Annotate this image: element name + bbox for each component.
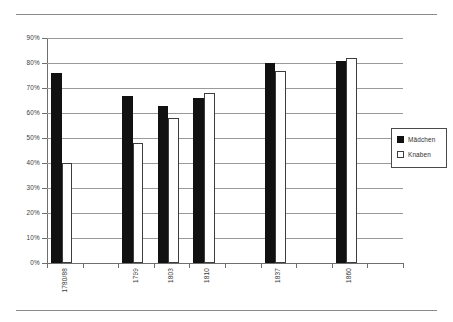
bar-maedchen-1837 — [265, 63, 276, 263]
bar-maedchen-1860 — [336, 61, 347, 264]
y-axis-label-60%: 60% — [0, 109, 40, 116]
y-axis-label-40%: 40% — [0, 159, 40, 166]
y-axis-label-0%: 0% — [0, 259, 40, 266]
y-axis-label-20%: 20% — [0, 209, 40, 216]
y-tick-70% — [42, 88, 47, 89]
y-axis-label-80%: 80% — [0, 59, 40, 66]
x-tick-9 — [367, 263, 368, 268]
y-tick-40% — [42, 163, 47, 164]
bar-knaben-1810 — [204, 93, 215, 263]
x-tick-4 — [189, 263, 190, 268]
legend-label-knaben: Knaben — [408, 151, 431, 158]
x-axis-label-1810: 1810 — [203, 268, 210, 283]
x-tick-6 — [261, 263, 262, 268]
legend-item-knaben: Knaben — [397, 151, 431, 158]
x-tick-10 — [403, 263, 404, 268]
x-tick-5 — [225, 263, 226, 268]
y-tick-50% — [42, 138, 47, 139]
y-axis-label-10%: 10% — [0, 234, 40, 241]
x-axis-label-1803: 1803 — [167, 268, 174, 283]
x-axis-label-1837: 1837 — [274, 268, 281, 283]
bar-chart: 0%10%20%30%40%50%60%70%80%90% 1780/88179… — [0, 0, 453, 322]
y-tick-10% — [42, 238, 47, 239]
x-tick-1 — [83, 263, 84, 268]
legend-label-maedchen: Mädchen — [408, 136, 435, 143]
y-axis-label-30%: 30% — [0, 184, 40, 191]
y-tick-30% — [42, 188, 47, 189]
y-axis-label-70%: 70% — [0, 84, 40, 91]
bar-knaben-1799 — [133, 143, 144, 263]
gridline-90% — [47, 38, 403, 39]
chart-legend: Mädchen Knaben — [391, 128, 447, 168]
x-tick-2 — [118, 263, 119, 268]
bar-maedchen-1810 — [193, 98, 204, 263]
y-axis-label-90%: 90% — [0, 34, 40, 41]
x-tick-3 — [154, 263, 155, 268]
page-canvas: 0%10%20%30%40%50%60%70%80%90% 1780/88179… — [0, 0, 453, 322]
x-tick-7 — [296, 263, 297, 268]
filled-square-icon — [397, 136, 404, 143]
bar-knaben-1780/88 — [62, 163, 73, 263]
x-tick-0 — [47, 263, 48, 268]
y-tick-90% — [42, 38, 47, 39]
x-axis-label-1860: 1860 — [345, 268, 352, 283]
bar-maedchen-1803 — [158, 106, 169, 264]
bar-knaben-1860 — [346, 58, 357, 263]
y-tick-60% — [42, 113, 47, 114]
y-tick-80% — [42, 63, 47, 64]
x-axis-label-1799: 1799 — [132, 268, 139, 283]
y-axis-label-50%: 50% — [0, 134, 40, 141]
y-tick-20% — [42, 213, 47, 214]
bar-maedchen-1799 — [122, 96, 133, 264]
bar-knaben-1803 — [168, 118, 179, 263]
hollow-square-icon — [397, 151, 404, 158]
bar-maedchen-1780/88 — [51, 73, 62, 263]
x-axis-label-1780/88: 1780/88 — [61, 268, 68, 293]
x-tick-8 — [332, 263, 333, 268]
bar-knaben-1837 — [275, 71, 286, 264]
legend-item-maedchen: Mädchen — [397, 136, 435, 143]
